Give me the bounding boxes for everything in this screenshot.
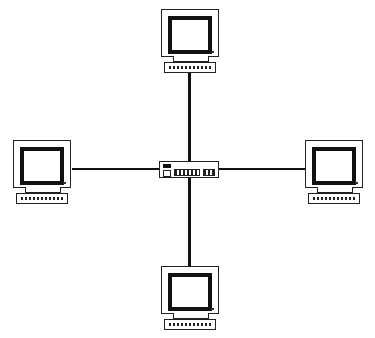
cable-left — [72, 168, 160, 170]
cable-top — [188, 73, 191, 162]
workstation-left-icon — [13, 140, 73, 206]
cable-bottom — [188, 176, 191, 266]
workstation-right-icon — [305, 140, 365, 206]
cable-right — [217, 168, 305, 170]
workstation-bottom-icon — [161, 266, 221, 332]
hub-icon — [159, 161, 219, 178]
workstation-top-icon — [161, 9, 221, 75]
